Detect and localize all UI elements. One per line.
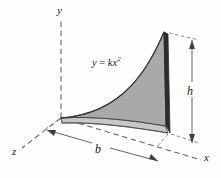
dim-h-arrowhead-top bbox=[189, 40, 195, 49]
z-axis-line bbox=[22, 118, 61, 148]
dim-b-extension-left bbox=[43, 120, 58, 131]
solid-body-group bbox=[61, 32, 170, 133]
dimension-h-label: h bbox=[187, 85, 193, 97]
z-axis-label: z bbox=[12, 146, 16, 157]
parabolic-face-shape bbox=[61, 32, 166, 126]
dim-b-extension-right bbox=[156, 134, 168, 148]
dimension-h-group bbox=[169, 33, 199, 143]
curve-equation-label: y = kx2 bbox=[92, 56, 121, 68]
dim-b-arrowhead-left bbox=[47, 130, 56, 136]
dimension-b-label: b bbox=[95, 143, 101, 155]
dim-b-arrowhead-right bbox=[149, 154, 158, 161]
dim-h-extension-top bbox=[169, 33, 199, 40]
dim-h-arrowhead-bottom bbox=[189, 134, 195, 143]
equation-exponent: 2 bbox=[117, 55, 121, 63]
y-axis-label: y bbox=[57, 5, 62, 16]
axis-lines-group bbox=[22, 18, 201, 160]
dim-h-extension-bottom bbox=[171, 134, 199, 143]
parabolic-spandrel-figure: y z x b h y = kx2 bbox=[0, 0, 221, 178]
x-axis-label: x bbox=[204, 152, 209, 163]
